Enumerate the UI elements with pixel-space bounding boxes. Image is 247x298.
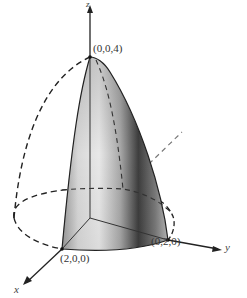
apex-point (88, 55, 92, 59)
z-axis-label: z (86, 0, 90, 9)
diagram-canvas (0, 0, 247, 298)
dashed-base-ellipse-front (14, 218, 62, 249)
x-axis-arrowhead (23, 276, 32, 285)
apex-label: (0,0,4) (93, 43, 122, 54)
surface-shading (62, 57, 168, 250)
x-axis (27, 249, 62, 282)
x-intercept-point (60, 247, 64, 251)
paraboloid-diagram: z (0,0,4) (2,0,0) (0,2,0) y x (0, 0, 247, 298)
x-intercept-label: (2,0,0) (60, 253, 89, 264)
y-intercept-label: (0,2,0) (151, 236, 180, 247)
y-axis-label: y (225, 242, 230, 253)
y-axis-arrowhead (212, 246, 222, 252)
x-axis-label: x (14, 284, 19, 295)
